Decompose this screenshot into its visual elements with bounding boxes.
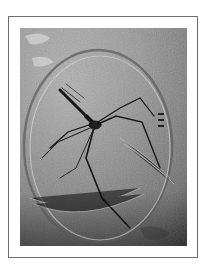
insect-photo bbox=[20, 28, 187, 246]
photo-illustration bbox=[20, 28, 187, 246]
